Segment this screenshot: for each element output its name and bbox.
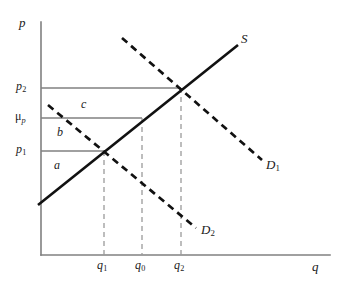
x-axis-label: q [312,260,319,273]
quantity-tick-label-q0: q0 [135,259,145,271]
demand-curve-2-label-sub: 2 [211,228,215,238]
supply-demand-figure: p q p2 μp p1 q1 q0 q2 S D1 D2 a b c [0,0,341,289]
price-tick-label-mu-p: μp [15,110,26,122]
region-label-b: b [57,126,63,138]
supply-curve-label: S [241,32,248,45]
quantity-tick-sub-q2: 2 [180,264,184,273]
axes-group [41,22,330,255]
price-level-lines [41,88,181,151]
quantity-tick-label-q2: q2 [174,259,184,271]
demand-curve-1-label-sub: 1 [276,163,280,173]
quantity-tick-label-q1: q1 [97,259,107,271]
region-label-a: a [54,159,60,171]
price-tick-sub-p1: 1 [22,148,26,157]
supply-curve [38,45,238,205]
demand-curve-1 [122,38,262,160]
quantity-guide-lines [104,88,181,255]
demand-curve-1-label: D1 [266,158,280,171]
price-tick-sub-mu-p: p [22,116,26,125]
chart-canvas [0,0,341,289]
price-tick-label-p2: p2 [16,80,26,92]
demand-curve-2-label: D2 [201,223,215,236]
demand-curve-2-label-base: D [201,222,210,237]
price-tick-label-p1: p1 [16,143,26,155]
demand-curve-2 [48,105,196,228]
demand-curve-1-label-base: D [266,157,275,172]
quantity-tick-sub-q1: 1 [103,264,107,273]
y-axis-label: p [19,16,26,29]
quantity-tick-sub-q0: 0 [141,264,145,273]
price-tick-base-mu-p: μ [15,109,21,123]
price-tick-sub-p2: 2 [22,85,26,94]
supply-curve-label-base: S [241,31,248,46]
region-label-c: c [81,98,86,110]
